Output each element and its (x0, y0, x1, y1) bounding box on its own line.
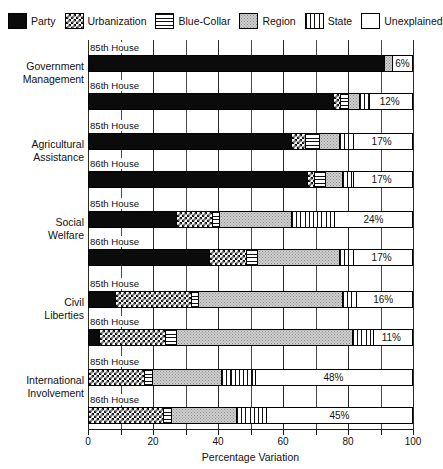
bar-segment-state (236, 408, 266, 423)
stacked-bar: 6% (88, 55, 413, 72)
bar-segment-unexplained: 12% (369, 94, 409, 109)
bar-subgroup-label: 85th House (90, 278, 141, 289)
bar-segment-urbanization (115, 292, 191, 307)
unexplained-value-label: 45% (329, 411, 349, 421)
bar-segment-state (339, 134, 353, 149)
bar-segment-unexplained: 45% (266, 408, 412, 423)
bar-segment-blue-collar (314, 172, 325, 187)
category-label-social-welfare: SocialWelfare (4, 216, 84, 242)
x-tick-0 (88, 430, 89, 435)
stacked-bar: 17% (88, 171, 413, 188)
stacked-bar: 11% (88, 329, 413, 346)
category-label-line: Civil (4, 296, 84, 309)
x-tick-70 (316, 430, 317, 435)
unexplained-value-label: 12% (380, 97, 400, 107)
bar-subgroup-label: 86th House (90, 158, 141, 169)
bar-segment-unexplained: 16% (356, 292, 409, 307)
category-label-line: Social (4, 216, 84, 229)
category-label-international-involvement: InternationalInvolvement (4, 374, 84, 400)
category-label-civil-liberties: CivilLiberties (4, 296, 84, 322)
category-label-line: Welfare (4, 229, 84, 242)
solid-black-swatch (8, 13, 27, 29)
bar-group-international-involvement: 85th House48%86th House45% (88, 356, 413, 430)
stacked-bar: 24% (88, 211, 413, 228)
unexplained-value-label: 17% (372, 175, 392, 185)
bar-subgroup-label: 86th House (90, 394, 141, 405)
x-tick-50 (251, 430, 252, 435)
bar-segment-urbanization (291, 134, 305, 149)
stacked-bar: 12% (88, 93, 413, 110)
bar-segment-unexplained: 24% (334, 212, 412, 227)
x-tick-90 (381, 430, 382, 435)
legend-item-party: Party (8, 13, 56, 29)
bar-subgroup-label: 86th House (90, 80, 141, 91)
bar-segment-region (176, 330, 353, 345)
bar-segment-party (89, 94, 333, 109)
category-label-line: Involvement (4, 387, 84, 400)
legend-label: State (328, 16, 353, 27)
bar-segment-blue-collar (163, 408, 170, 423)
x-tick-label-20: 20 (147, 436, 158, 447)
x-axis-title: Percentage Variation (88, 451, 413, 463)
bar-segment-party (89, 292, 115, 307)
x-tick-80 (348, 430, 349, 435)
bar-segment-blue-collar (305, 134, 319, 149)
bar-segment-region (219, 212, 291, 227)
x-tick-label-80: 80 (342, 436, 353, 447)
bar-segment-region (152, 370, 221, 385)
x-tick-10 (121, 430, 122, 435)
stacked-bar: 48% (88, 369, 413, 386)
bar-segment-urbanization (89, 370, 144, 385)
stacked-bar: 17% (88, 133, 413, 150)
x-axis: 020406080100 Percentage Variation (88, 430, 413, 466)
x-tick-40 (218, 430, 219, 435)
unexplained-value-label: 6% (395, 59, 409, 69)
bar-row: 86th House17% (88, 158, 413, 189)
legend-item-blue-collar: Blue-Collar (155, 13, 230, 29)
x-tick-label-0: 0 (85, 436, 91, 447)
bar-group-social-welfare: 85th House24%86th House17% (88, 198, 413, 272)
x-tick-label-60: 60 (277, 436, 288, 447)
x-tick-100 (413, 430, 414, 435)
bar-segment-blue-collar (191, 292, 199, 307)
horizontal-lines-swatch (155, 13, 174, 29)
bar-segment-state (221, 370, 255, 385)
bar-segment-unexplained: 17% (353, 172, 409, 187)
bar-segment-state (342, 292, 356, 307)
bar-segment-blue-collar (212, 212, 219, 227)
bar-segment-region (325, 172, 342, 187)
unexplained-value-label: 17% (372, 253, 392, 263)
x-tick-20 (153, 430, 154, 435)
legend-item-urbanization: Urbanization (65, 13, 147, 29)
stacked-bar: 17% (88, 249, 413, 266)
bar-segment-unexplained: 17% (353, 134, 409, 149)
bar-segment-state (352, 330, 373, 345)
bar-segment-region (384, 56, 391, 71)
bar-segment-state (342, 172, 353, 187)
unexplained-value-label: 17% (372, 137, 392, 147)
bar-segment-region (348, 94, 359, 109)
bar-subgroup-label: 86th House (90, 316, 141, 327)
legend-label: Urbanization (88, 16, 147, 27)
bar-row: 85th House6% (88, 42, 413, 73)
bar-subgroup-label: 85th House (90, 356, 141, 367)
bar-segment-party (89, 212, 176, 227)
category-label-line: Liberties (4, 309, 84, 322)
bar-segment-urbanization (89, 408, 163, 423)
bar-segment-party (89, 330, 99, 345)
bar-row: 86th House17% (88, 236, 413, 267)
bar-segment-urbanization (209, 250, 246, 265)
bar-segment-urbanization (333, 94, 341, 109)
bar-subgroup-label: 86th House (90, 236, 141, 247)
legend-label: Party (31, 16, 56, 27)
bar-segment-blue-collar (165, 330, 176, 345)
category-label-line: Government (4, 60, 84, 73)
legend-item-state: State (305, 13, 353, 29)
bar-segment-party (89, 134, 291, 149)
legend-label: Region (262, 16, 295, 27)
bar-row: 86th House11% (88, 316, 413, 347)
bar-segment-unexplained: 48% (255, 370, 412, 385)
stacked-bar: 16% (88, 291, 413, 308)
bar-segment-urbanization (176, 212, 212, 227)
x-tick-label-40: 40 (212, 436, 223, 447)
